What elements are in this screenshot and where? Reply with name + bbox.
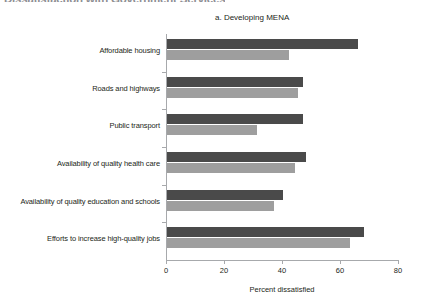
x-axis-tick-label: 60 (336, 266, 344, 275)
x-axis-tick-label: 40 (278, 266, 286, 275)
bar-series-dark (167, 39, 358, 49)
category-group: Availability of quality health care (0, 147, 423, 185)
bar-series-dark (167, 152, 306, 162)
category-axis-label: Efforts to increase high-quality jobs (47, 234, 160, 243)
x-axis-tick-label: 0 (164, 266, 168, 275)
bar-series-light (167, 238, 350, 248)
x-axis-tick (398, 260, 399, 264)
x-axis-tick (282, 260, 283, 264)
bar-series-light (167, 163, 295, 173)
category-axis-label: Availability of quality education and sc… (20, 197, 160, 206)
figure-title: Dissatisfaction with Government Services (4, 0, 225, 2)
y-axis-tick (162, 109, 167, 110)
category-axis-label: Public transport (109, 121, 160, 130)
x-axis-tick (224, 260, 225, 264)
category-group: Roads and highways (0, 72, 423, 110)
category-axis-label: Availability of quality health care (57, 159, 160, 168)
category-axis-label: Roads and highways (92, 84, 160, 93)
x-axis-tick (340, 260, 341, 264)
bar-series-light (167, 88, 298, 98)
bar-series-dark (167, 190, 283, 200)
bar-series-light (167, 201, 274, 211)
bar-series-dark (167, 114, 303, 124)
y-axis-tick (162, 147, 167, 148)
category-group: Availability of quality education and sc… (0, 185, 423, 223)
category-group: Affordable housing (0, 34, 423, 72)
y-axis-tick (162, 222, 167, 223)
x-axis-tick-label: 20 (220, 266, 228, 275)
bar-series-light (167, 125, 257, 135)
bar-series-dark (167, 77, 303, 87)
x-axis-title: Percent dissatisfied (249, 285, 314, 294)
category-group: Efforts to increase high-quality jobs (0, 222, 423, 260)
category-axis-label: Affordable housing (99, 46, 160, 55)
y-axis-tick (162, 185, 167, 186)
panel-subtitle: a. Developing MENA (215, 13, 289, 22)
x-axis-tick (166, 260, 167, 264)
bar-series-light (167, 50, 289, 60)
x-axis-tick-label: 80 (394, 266, 402, 275)
category-group: Public transport (0, 109, 423, 147)
bar-series-dark (167, 227, 364, 237)
y-axis-tick (162, 72, 167, 73)
